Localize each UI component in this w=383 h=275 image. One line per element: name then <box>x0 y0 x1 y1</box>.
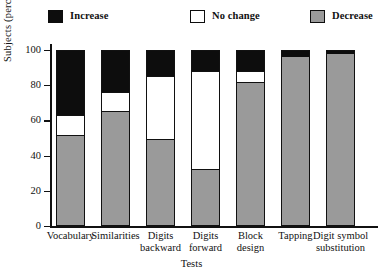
x-label-line: design <box>220 242 282 254</box>
bar-similarities <box>101 50 130 226</box>
legend-label-no-change: No change <box>212 11 260 22</box>
bar-digit-symbol-substitution <box>326 50 355 226</box>
bar-segment-increase <box>326 50 355 54</box>
y-tick-label: 80 <box>31 80 42 91</box>
x-axis-title: Tests <box>0 258 383 269</box>
bar-segment-decrease <box>281 57 310 226</box>
bar-digits-forward <box>191 50 220 226</box>
bar-segment-increase <box>56 50 85 115</box>
legend-label-decrease: Decrease <box>332 11 373 22</box>
bar-segment-decrease <box>326 54 355 226</box>
legend-item-no-change: No change <box>190 10 260 23</box>
plot-area: 100806040200 <box>50 50 378 226</box>
bar-segment-decrease <box>236 83 265 226</box>
bar-segment-no-change <box>56 115 85 136</box>
bar-block-design <box>236 50 265 226</box>
legend-swatch-increase-icon <box>48 10 63 23</box>
legend-item-increase: Increase <box>48 10 109 23</box>
y-tick-label: 40 <box>31 150 42 161</box>
bar-segment-decrease <box>56 136 85 226</box>
bar-segment-increase <box>191 50 220 71</box>
bar-segment-increase <box>236 50 265 71</box>
y-tick-label: 60 <box>31 115 42 126</box>
legend-item-decrease: Decrease <box>310 10 373 23</box>
bar-segment-increase <box>101 50 130 92</box>
legend-label-increase: Increase <box>70 11 109 22</box>
chart-figure: Increase No change Decrease Subjects (pe… <box>0 0 383 275</box>
bar-segment-decrease <box>101 112 130 226</box>
bar-tapping <box>281 50 310 226</box>
y-tick-label: 100 <box>25 45 41 56</box>
bar-segment-increase <box>281 50 310 57</box>
bar-segment-no-change <box>101 92 130 111</box>
bar-segment-decrease <box>191 170 220 226</box>
bar-segment-no-change <box>236 71 265 83</box>
y-axis-title: Subjects (percent) <box>2 0 13 62</box>
y-tick-label: 20 <box>31 186 42 197</box>
bar-group <box>50 50 378 226</box>
y-tick-mark <box>44 226 50 227</box>
legend-swatch-no-change-icon <box>190 10 205 23</box>
bar-vocabulary <box>56 50 85 226</box>
bar-segment-increase <box>146 50 175 76</box>
x-label-line: Digit symbol <box>310 230 372 242</box>
x-label-digit-symbol-substitution: Digit symbolsubstitution <box>310 230 372 253</box>
chart-legend: Increase No change Decrease <box>44 10 378 30</box>
x-label-line: substitution <box>310 242 372 254</box>
bar-segment-no-change <box>191 71 220 170</box>
legend-swatch-decrease-icon <box>310 10 325 23</box>
x-axis-line <box>50 226 378 228</box>
bar-segment-no-change <box>146 76 175 139</box>
bar-digits-backward <box>146 50 175 226</box>
bar-segment-decrease <box>146 140 175 226</box>
